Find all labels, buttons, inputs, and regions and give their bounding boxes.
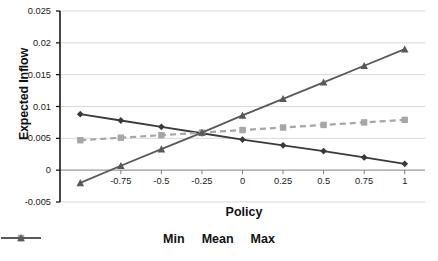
plot-area <box>0 0 438 261</box>
legend-item-max[interactable]: Max <box>251 232 275 246</box>
legend-key-triangle-icon <box>0 232 42 244</box>
legend-label: Mean <box>202 232 234 246</box>
series-min <box>77 111 408 167</box>
legend-item-min[interactable]: Min <box>163 232 185 246</box>
legend-label: Min <box>163 232 185 246</box>
legend-item-mean[interactable]: Mean <box>202 232 234 246</box>
series-max <box>76 45 408 186</box>
chart-legend: MinMeanMax <box>0 232 438 246</box>
legend-label: Max <box>251 232 275 246</box>
chart-container: Expected Inflow Policy 0.0250.020.0150.0… <box>0 0 438 261</box>
